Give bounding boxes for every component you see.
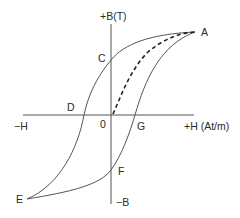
point-f-label: F [118,165,124,177]
hysteresis-diagram: +B(T) −B +H (At/m) −H 0 A C D G F E [0,0,240,218]
point-e-label: E [16,193,23,205]
h-negative-label: −H [14,120,28,132]
point-a-label: A [201,26,208,38]
initial-magnetization-curve [113,32,195,114]
point-g-label: G [137,120,145,132]
point-c-label: C [98,52,106,64]
origin-label: 0 [100,118,106,130]
hysteresis-svg: +B(T) −B +H (At/m) −H 0 A C D G F E [0,0,240,218]
b-negative-label: −B [116,196,129,208]
h-positive-label: +H (At/m) [184,120,229,132]
point-d-label: D [67,101,75,113]
b-positive-label: +B(T) [100,10,127,22]
